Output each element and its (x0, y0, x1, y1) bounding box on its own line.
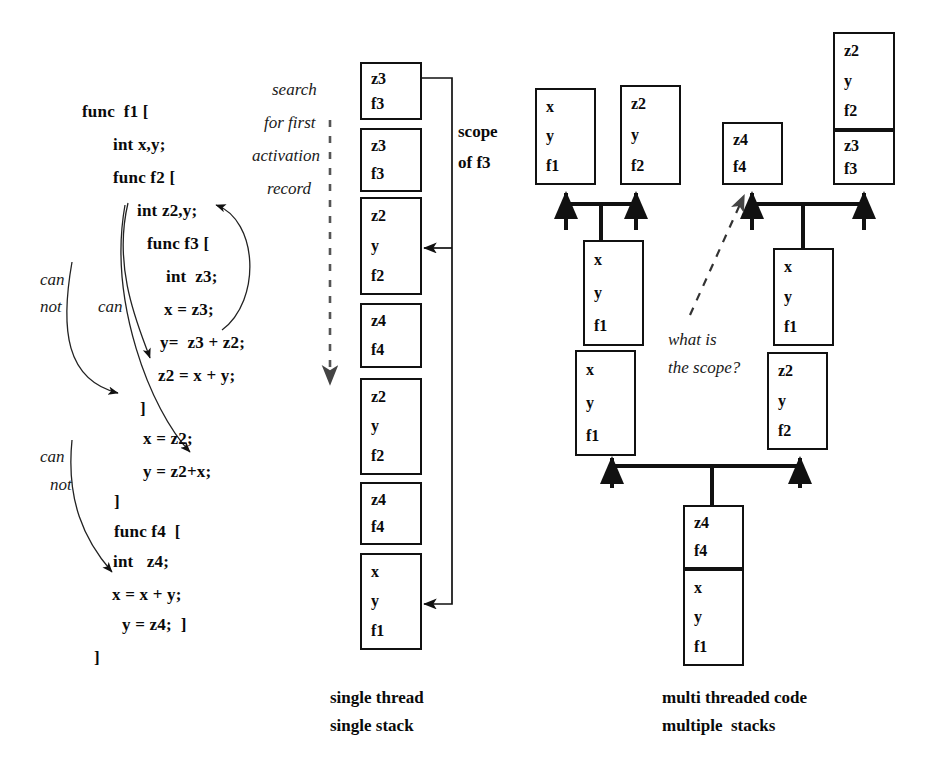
frame-t3-f2-slot-2: f2 (844, 103, 893, 119)
code-line-6: x = z3; (164, 300, 214, 320)
frame-f2-upper-slot-2: f2 (371, 268, 420, 284)
frame-t1-f2-slot-1: y (631, 127, 679, 143)
multi-thread-caption-line1: multi threaded code (662, 688, 807, 708)
frame-f4-upper-slot-1: f4 (371, 342, 420, 358)
frame-base-f1-slot-0: x (694, 580, 742, 596)
code-line-4: func f3 [ (147, 234, 209, 254)
frame-t2-f4-slot-0: z4 (733, 132, 781, 148)
frame-left-f1-up: xyf1 (583, 240, 644, 346)
frame-t1-f1: xyf1 (535, 88, 596, 185)
frame-t3-f2-slot-1: y (844, 73, 893, 89)
frame-base-f1-slot-1: y (694, 609, 742, 625)
search-line-3: activation (252, 146, 320, 166)
frame-f3-second-slot-0: z3 (371, 138, 420, 154)
frame-f2-lower-slot-0: z2 (371, 389, 420, 405)
frame-right-f1-slot-2: f1 (784, 319, 832, 335)
frame-left-f1-up-slot-1: y (594, 285, 642, 301)
code-line-17: ] (94, 648, 100, 668)
single-thread-caption-line1: single thread (330, 688, 424, 708)
frame-left-f1-up-slot-0: x (594, 252, 642, 268)
frame-t2-f4: z4f4 (722, 122, 783, 185)
code-line-8: z2 = x + y; (158, 366, 235, 386)
frame-t1-f1-slot-2: f1 (546, 158, 594, 174)
frame-t3-f2-slot-0: z2 (844, 43, 893, 59)
frame-f2-lower-slot-1: y (371, 418, 420, 434)
scope-label-line2: of f3 (458, 153, 491, 173)
not-label-2: not (50, 475, 72, 495)
code-line-15: x = x + y; (112, 585, 182, 605)
frame-f3-top-slot-0: z3 (371, 71, 420, 87)
code-line-14: int z4; (113, 552, 169, 572)
frame-f1-bottom-slot-2: f1 (371, 623, 420, 639)
frame-right-f1-slot-0: x (784, 259, 832, 275)
frame-left-f1-low-slot-0: x (586, 362, 634, 378)
frame-f2-upper: z2yf2 (360, 197, 422, 295)
code-line-9: ] (140, 399, 146, 419)
code-line-5: int z3; (166, 267, 218, 287)
frame-f4-upper-slot-0: z4 (371, 313, 420, 329)
frame-base-f1-slot-2: f1 (694, 639, 742, 655)
frame-t3-f3-slot-0: z3 (844, 138, 893, 154)
frame-right-f2-slot-1: y (778, 393, 826, 409)
frame-t3-f3: z3f3 (833, 130, 895, 185)
frame-right-f1: xyf1 (773, 248, 834, 346)
frame-right-f2-slot-2: f2 (778, 423, 826, 439)
frame-t1-f2: z2yf2 (620, 85, 681, 185)
frame-f2-lower-slot-2: f2 (371, 448, 420, 464)
not-label-1: not (40, 297, 62, 317)
frame-t1-f2-slot-0: z2 (631, 96, 679, 112)
scope-arrows-group (67, 203, 250, 572)
frame-f3-top-slot-1: f3 (371, 96, 420, 112)
what-is-scope-line1: what is (668, 330, 717, 350)
frame-f4-lower-slot-1: f4 (371, 519, 420, 535)
code-line-11: y = z2+x; (143, 462, 211, 482)
diagram-canvas: func f1 [int x,y;func f2 [int z2,y;func … (0, 0, 926, 766)
frame-f1-bottom-slot-0: x (371, 564, 420, 580)
frame-right-f1-slot-1: y (784, 289, 832, 305)
frame-base-f1: xyf1 (683, 569, 744, 666)
search-line-4: record (267, 179, 311, 199)
frame-t3-f2: z2yf2 (833, 32, 895, 130)
frame-t3-f3-slot-1: f3 (844, 161, 893, 177)
code-line-2: func f2 [ (113, 168, 175, 188)
multi-thread-caption-line2: multiple stacks (662, 716, 775, 736)
frame-left-f1-low: xyf1 (575, 350, 636, 456)
frame-f4-lower: z4f4 (360, 482, 422, 545)
frame-right-f2: z2yf2 (767, 352, 828, 450)
frame-f2-upper-slot-1: y (371, 238, 420, 254)
code-line-13: func f4 [ (114, 522, 181, 542)
frame-f4-upper: z4f4 (360, 303, 422, 368)
code-line-16: y = z4; ] (122, 615, 187, 635)
frame-f2-lower: z2yf2 (360, 378, 422, 475)
scope-bracket (422, 78, 452, 604)
frame-t1-f1-slot-1: y (546, 128, 594, 144)
can-label-3: can (40, 447, 65, 467)
code-line-12: ] (114, 492, 120, 512)
frame-left-f1-low-slot-1: y (586, 395, 634, 411)
frame-left-f1-low-slot-2: f1 (586, 428, 634, 444)
frame-f1-bottom-slot-1: y (371, 593, 420, 609)
what-is-scope-pointer (690, 200, 742, 315)
frame-f3-second: z3f3 (360, 128, 422, 192)
can-label-1: can (40, 270, 65, 290)
frame-f3-top: z3f3 (360, 62, 422, 120)
frame-f1-bottom: xyf1 (360, 553, 422, 650)
frame-base-f4-slot-1: f4 (694, 543, 742, 559)
code-line-7: y= z3 + z2; (160, 333, 245, 353)
frame-f4-lower-slot-0: z4 (371, 492, 420, 508)
code-line-10: x = z2; (143, 429, 193, 449)
frame-base-f4: z4f4 (683, 505, 744, 569)
code-line-1: int x,y; (113, 135, 166, 155)
code-line-3: int z2,y; (137, 201, 197, 221)
frame-base-f4-slot-0: z4 (694, 515, 742, 531)
frame-right-f2-slot-0: z2 (778, 363, 826, 379)
frame-t1-f2-slot-2: f2 (631, 158, 679, 174)
search-line-2: for first (264, 113, 316, 133)
frame-t2-f4-slot-1: f4 (733, 159, 781, 175)
can-label-2: can (98, 297, 123, 317)
code-line-0: func f1 [ (82, 102, 149, 122)
frame-left-f1-up-slot-2: f1 (594, 318, 642, 334)
frame-f3-second-slot-1: f3 (371, 166, 420, 182)
frame-f2-upper-slot-0: z2 (371, 208, 420, 224)
search-line-1: search (272, 80, 317, 100)
